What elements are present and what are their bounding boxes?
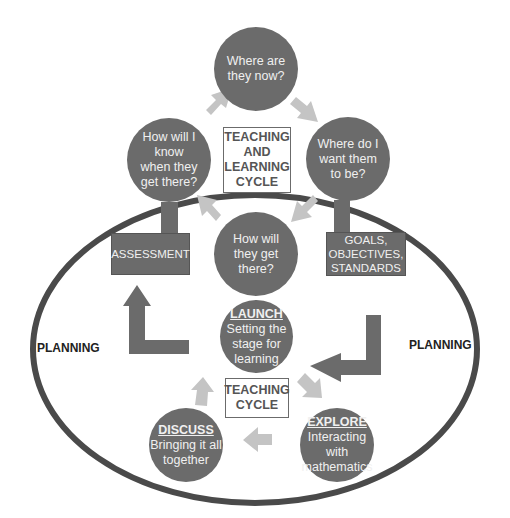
node-text: Setting the bbox=[227, 322, 287, 337]
node-text: Interacting bbox=[308, 430, 366, 445]
assessment-box: ASSESSMENT bbox=[111, 233, 190, 275]
node-text: learning bbox=[234, 352, 278, 367]
node-text: Where do I bbox=[317, 137, 378, 152]
goals-connector bbox=[334, 200, 350, 234]
node-text: there? bbox=[238, 262, 273, 277]
node-where-do-i-want-them: Where do I want them to be? bbox=[306, 117, 390, 201]
node-text: know bbox=[154, 145, 183, 160]
goals-label-line: STANDARDS bbox=[331, 261, 401, 275]
teaching-and-learning-cycle-label: TEACHING AND LEARNING CYCLE bbox=[223, 127, 291, 193]
label-line: TEACHING bbox=[224, 383, 289, 398]
node-text: with bbox=[326, 445, 348, 460]
node-where-are-they-now: Where are they now? bbox=[214, 27, 298, 111]
node-how-will-i-know: How will I know when they get there? bbox=[127, 118, 211, 202]
arrow-down-right-icon bbox=[297, 373, 322, 398]
node-text: stage for bbox=[232, 337, 281, 352]
goals-label-line: GOALS, bbox=[345, 233, 388, 247]
node-title: DISCUSS bbox=[158, 423, 214, 438]
node-text: they get bbox=[234, 247, 278, 262]
node-text: when they bbox=[141, 160, 198, 175]
node-text: Bringing it all bbox=[150, 438, 222, 453]
label-line: CYCLE bbox=[236, 398, 278, 413]
node-text: How will I bbox=[143, 130, 196, 145]
node-text: mathematics bbox=[302, 460, 373, 475]
node-text: they now? bbox=[228, 69, 285, 84]
label-line: AND bbox=[243, 145, 270, 160]
node-text: together bbox=[163, 453, 209, 468]
node-title: EXPLORE bbox=[307, 415, 367, 430]
node-text: get there? bbox=[141, 175, 197, 190]
assessment-connector bbox=[161, 202, 178, 236]
goals-label-line: OBJECTIVES, bbox=[329, 247, 404, 261]
large-arrow-left-icon bbox=[310, 315, 381, 382]
arrow-down-right-icon bbox=[290, 97, 318, 122]
node-text: want them bbox=[319, 152, 377, 167]
node-explore: EXPLORE Interacting with mathematics bbox=[300, 408, 374, 482]
assessment-label: ASSESSMENT bbox=[111, 247, 190, 261]
large-arrow-up-icon bbox=[123, 285, 189, 354]
arrow-left-icon bbox=[243, 427, 272, 452]
node-title: LAUNCH bbox=[230, 307, 283, 322]
goals-objectives-standards-box: GOALS, OBJECTIVES, STANDARDS bbox=[326, 232, 406, 276]
teaching-cycle-label: TEACHING CYCLE bbox=[225, 378, 289, 418]
label-line: CYCLE bbox=[236, 175, 278, 190]
arrow-up-icon bbox=[191, 377, 214, 406]
planning-label-left: PLANNING bbox=[37, 341, 100, 355]
node-text: to be? bbox=[331, 167, 366, 182]
node-launch: LAUNCH Setting the stage for learning bbox=[220, 300, 293, 373]
node-text: How will bbox=[233, 232, 279, 247]
node-discuss: DISCUSS Bringing it all together bbox=[149, 408, 223, 482]
label-line: TEACHING bbox=[224, 130, 289, 145]
label-line: LEARNING bbox=[224, 160, 289, 175]
node-text: Where are bbox=[227, 54, 285, 69]
planning-label-right: PLANNING bbox=[409, 338, 472, 352]
node-how-will-they-get-there: How will they get there? bbox=[214, 212, 298, 296]
